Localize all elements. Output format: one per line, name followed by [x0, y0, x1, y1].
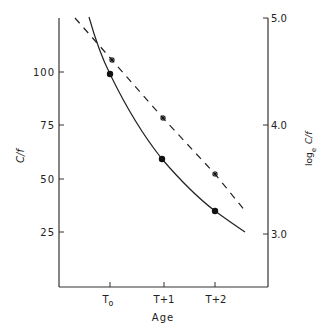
- left-axis-tick-labels: 100 75 50 25: [33, 67, 55, 238]
- right-tick-5: 5.0: [271, 13, 287, 24]
- right-axis-tick-labels: 5.0 4.0 3.0: [271, 13, 287, 240]
- x-tick-t1: T+1: [153, 294, 175, 305]
- log-cf-point-t2: [212, 171, 218, 177]
- bottom-axis-tick-labels: To T+1 T+2: [101, 294, 226, 308]
- right-tick-3: 3.0: [271, 229, 287, 240]
- svg-text:logeC/f: logeC/f: [304, 130, 318, 166]
- left-tick-75: 75: [40, 120, 55, 131]
- x-tick-t2: T+2: [205, 294, 227, 305]
- left-tick-100: 100: [33, 67, 55, 78]
- right-tick-4: 4.0: [271, 120, 287, 131]
- series-cf-markers: [107, 71, 218, 214]
- right-axis-label: logeC/f: [304, 130, 318, 166]
- series-log-cf-line: [75, 18, 246, 212]
- cf-point-t1: [159, 156, 165, 162]
- log-cf-point-t1: [160, 115, 166, 121]
- x-tick-t0: To: [101, 294, 113, 308]
- cf-point-t2: [212, 208, 218, 214]
- chart: 100 75 50 25 C/f 5.0 4.0 3.0 logeC/f To …: [0, 0, 329, 330]
- log-cf-point-t0: [109, 57, 115, 63]
- cf-point-t0: [107, 71, 113, 77]
- right-axis-ticks: [263, 18, 268, 234]
- left-tick-50: 50: [40, 174, 55, 185]
- series-cf-curve: [89, 17, 245, 232]
- left-axis-ticks: [59, 72, 64, 232]
- left-tick-25: 25: [40, 227, 55, 238]
- bottom-axis-ticks: [110, 282, 215, 287]
- x-axis-label: Age: [152, 312, 174, 323]
- left-axis-label: C/f: [15, 148, 26, 163]
